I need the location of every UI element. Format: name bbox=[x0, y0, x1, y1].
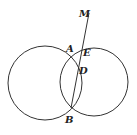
right-circle bbox=[60, 48, 128, 116]
label-A: A bbox=[65, 43, 74, 54]
label-B: B bbox=[64, 114, 73, 125]
label-E: E bbox=[82, 47, 91, 58]
label-M: M bbox=[78, 8, 91, 19]
geometry-diagram: M A E D B bbox=[0, 0, 137, 135]
label-D: D bbox=[78, 65, 88, 76]
